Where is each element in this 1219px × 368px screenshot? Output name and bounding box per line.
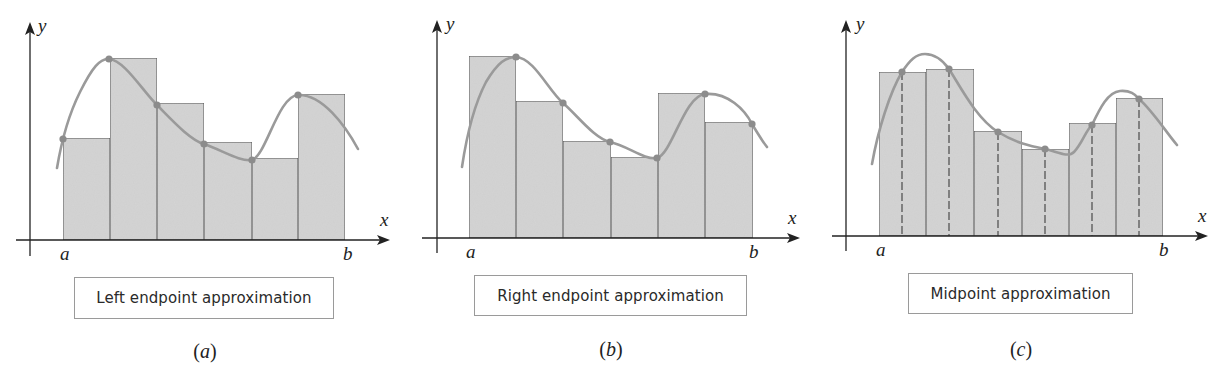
sample-point-dot: [1135, 95, 1142, 102]
x-axis-label: x: [787, 207, 797, 228]
panel-label-c: (c): [1010, 338, 1032, 361]
sample-point-dot: [701, 90, 708, 97]
panel-letter: b: [606, 338, 616, 360]
approximation-rectangle: [926, 69, 974, 236]
sample-point-dot: [294, 91, 301, 98]
approximation-rectangle: [63, 138, 110, 240]
y-axis-label: y: [444, 13, 455, 34]
approximation-rectangle: [658, 93, 705, 238]
paren-open: (: [599, 338, 606, 360]
approximation-rectangle: [204, 142, 252, 240]
lower-bound-label: a: [876, 239, 886, 260]
panel-right-endpoint: xyab: [422, 13, 800, 262]
sample-point-dot: [653, 154, 660, 161]
paren-open: (: [193, 340, 200, 362]
upper-bound-label: b: [1159, 239, 1169, 260]
sample-point-dot: [153, 101, 160, 108]
lower-bound-label: a: [466, 241, 476, 262]
sample-point-dot: [59, 135, 66, 142]
x-axis-label: x: [1197, 205, 1207, 226]
sample-point-dot: [200, 140, 207, 147]
sample-point-dot: [898, 68, 905, 75]
sample-point-dot: [994, 128, 1001, 135]
y-axis-label: y: [854, 13, 865, 34]
sample-point-dot: [1088, 121, 1095, 128]
caption-right-endpoint: Right endpoint approximation: [474, 275, 747, 316]
panel-midpoint: xyab: [832, 13, 1208, 260]
caption-text: Right endpoint approximation: [497, 287, 724, 305]
caption-text: Left endpoint approximation: [96, 289, 311, 307]
panel-label-a: (a): [193, 340, 216, 363]
sample-point-dot: [606, 138, 613, 145]
approximation-rectangle: [611, 157, 658, 238]
paren-close: ): [1025, 338, 1032, 360]
panel-left-endpoint: xyab: [16, 15, 390, 264]
paren-close: ): [210, 340, 217, 362]
panel-letter: a: [200, 340, 210, 362]
sample-point-dot: [945, 65, 952, 72]
y-axis-label: y: [36, 15, 47, 36]
approximation-rectangle: [157, 103, 204, 240]
paren-open: (: [1010, 338, 1017, 360]
approximation-rectangle: [110, 58, 157, 240]
x-axis-label: x: [379, 209, 389, 230]
sample-point-dot: [559, 99, 566, 106]
sample-point-dot: [105, 55, 112, 62]
approximation-rectangle: [298, 94, 345, 240]
upper-bound-label: b: [749, 241, 759, 262]
sample-point-dot: [1041, 145, 1048, 152]
sample-point-dot: [512, 53, 519, 60]
panel-letter: c: [1017, 338, 1026, 360]
approximation-rectangle: [252, 158, 298, 240]
lower-bound-label: a: [60, 243, 70, 264]
approximation-rectangle: [516, 101, 563, 238]
riemann-sum-figure: xyab xyab xyab Left endpoint approximati…: [0, 0, 1219, 368]
approximation-rectangle: [705, 122, 753, 238]
caption-left-endpoint: Left endpoint approximation: [74, 277, 334, 319]
caption-midpoint: Midpoint approximation: [908, 273, 1133, 314]
paren-close: ): [616, 338, 623, 360]
caption-text: Midpoint approximation: [930, 285, 1110, 303]
sample-point-dot: [248, 156, 255, 163]
approximation-rectangle: [563, 141, 611, 238]
upper-bound-label: b: [343, 243, 353, 264]
approximation-rectangle: [469, 56, 516, 238]
sample-point-dot: [748, 120, 755, 127]
panel-label-b: (b): [599, 338, 622, 361]
